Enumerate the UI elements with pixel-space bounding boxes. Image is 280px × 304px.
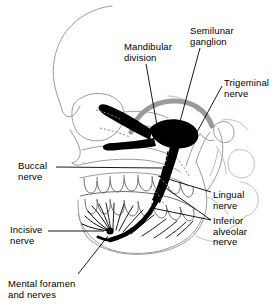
mental-foramen-point [106,227,113,234]
leader-buccal-nerve [56,167,162,168]
nasal-notch [72,163,84,165]
mandible-lower-border [78,214,202,253]
semilunar-ganglion-body [150,119,198,148]
leader-mandibular-division [146,64,158,131]
upper-teeth-row [84,175,193,197]
condyle-outline [214,122,234,143]
label-incisive-nerve: Incisive nerve [10,225,42,246]
upper-gum-line [80,173,188,186]
label-lingual-nerve: Lingual nerve [213,190,244,211]
mandibular-division-branch [103,138,156,151]
nasal-aperture-outline [70,130,80,163]
label-mental-foramen-and-nerves: Mental foramen and nerves [8,279,75,300]
label-inferior-alveolar-nerve: Inferior alveolar nerve [213,216,247,248]
mandible-ramus-posterior [206,128,223,192]
styloid-process [210,150,218,176]
trigeminal-nerve-figure: Mandibular division Semilunar ganglion T… [0,0,280,304]
posterior-skull-lower [222,119,248,130]
leader-semilunar-ganglion [178,48,200,129]
frontal-nasal-profile [62,106,80,117]
inferior-alveolar-nerve-anterior [98,237,110,240]
label-mandibular-division: Mandibular division [124,42,172,63]
label-buccal-nerve: Buccal nerve [18,161,47,182]
label-trigeminal-nerve: Trigeminal nerve [224,78,269,99]
cervical-vertebrae-outline [228,149,254,178]
cranium-outline [53,6,112,110]
label-semilunar-ganglion: Semilunar ganglion [190,26,234,47]
